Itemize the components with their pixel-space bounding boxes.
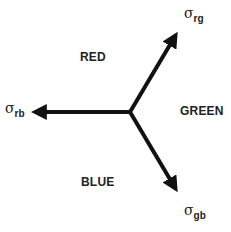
sigma-gb-label: σgb [184,202,206,221]
arrow-rg [130,38,174,112]
arrow-gb [130,112,174,186]
region-red-label: RED [80,50,106,64]
sigma-rg-label: σrg [184,5,204,24]
phase-diagram: RED GREEN BLUE σrg σrb σgb [0,0,231,232]
region-blue-label: BLUE [81,175,114,189]
region-green-label: GREEN [180,104,224,118]
sigma-rb-label: σrb [5,100,25,119]
